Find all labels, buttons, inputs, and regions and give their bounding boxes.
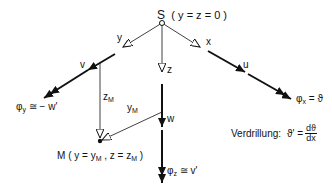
phi-x-sub: x xyxy=(302,98,306,105)
phi-y-rhs: ≅ − w' xyxy=(29,101,58,112)
z-m-label: zM xyxy=(103,92,114,103)
beam-coordinate-diagram xyxy=(0,0,332,193)
u-label: u xyxy=(243,60,249,70)
phi-x-rotation-arrow-2 xyxy=(282,94,291,99)
twist-formula: Verdrillung: ϑ' = dϑ dx xyxy=(231,124,317,143)
m-cond-prefix: ( y = y xyxy=(68,150,96,161)
phi-y-rotation-arrow xyxy=(50,70,88,94)
w-label: w xyxy=(167,114,174,124)
z-axis-label: z xyxy=(167,65,172,75)
phi-y-sub: y xyxy=(22,106,26,113)
phi-x-rotation-arrow xyxy=(248,74,285,95)
y-m-sub: M xyxy=(132,107,138,114)
y-axis-line xyxy=(123,23,162,47)
phi-x-rhs: = ϑ xyxy=(309,93,323,104)
phi-z-sub: z xyxy=(173,170,177,177)
u-displacement-arrow xyxy=(208,51,245,72)
twist-lhs: ϑ' = xyxy=(287,129,303,139)
phi-z-rhs: ≅ v' xyxy=(180,165,198,176)
origin-condition-text: ( y = z = 0 ) xyxy=(171,9,227,21)
shear-center-label: M ( y = yM , z = zM ) xyxy=(57,151,143,162)
y-m-offset-line xyxy=(102,112,162,140)
twist-label: Verdrillung: xyxy=(231,129,281,139)
m-cond-mid: , z = z xyxy=(101,150,131,161)
phi-y-rotation-arrow-2 xyxy=(44,91,55,98)
twist-fraction: dϑ dx xyxy=(305,124,317,143)
twist-denominator: dx xyxy=(305,134,317,143)
x-axis-label: x xyxy=(206,37,211,47)
shear-center-point-m xyxy=(98,139,102,143)
phi-x-label: φx = ϑ xyxy=(296,94,323,105)
m-cond-suffix: ) xyxy=(137,150,143,161)
origin-s-text: S xyxy=(157,8,165,22)
x-axis-line xyxy=(162,23,200,47)
v-displacement-arrow xyxy=(88,54,115,70)
v-label: v xyxy=(80,60,85,70)
y-m-label: yM xyxy=(127,103,138,114)
phi-y-label: φy ≅ − w' xyxy=(16,102,57,113)
z-m-sub: M xyxy=(108,96,114,103)
origin-label: S ( y = z = 0 ) xyxy=(157,9,227,21)
m-text: M xyxy=(57,150,65,161)
phi-z-label: φz ≅ v' xyxy=(167,166,197,177)
y-axis-label: y xyxy=(117,33,122,43)
